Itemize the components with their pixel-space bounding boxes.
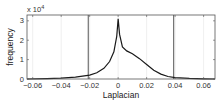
x-tick-label: 0.04 [168, 81, 183, 90]
y-tick-label: 2 [20, 36, 24, 45]
x-axis-label: Laplacian [103, 90, 140, 100]
x-tick-label: −0.06 [23, 81, 42, 90]
x-tick-label: −0.02 [80, 81, 99, 90]
y-tick-label: 3 [20, 16, 24, 25]
y-tick-label: 0 [20, 75, 24, 84]
x-tick-label: 0 [116, 81, 120, 90]
x-tick-label: −0.04 [52, 81, 71, 90]
plot-area-frame [27, 15, 215, 79]
y-axis-label: frequency [5, 28, 15, 66]
threshold-lines [88, 15, 173, 79]
y-multiplier: x 104 [27, 4, 44, 14]
x-tick-label: 0.06 [196, 81, 211, 90]
x-tick-label: 0.02 [139, 81, 154, 90]
y-tick-label: 1 [20, 55, 24, 64]
frequency-curve [27, 19, 215, 79]
chart: −0.06−0.04−0.0200.020.040.06 0123 Laplac… [0, 0, 224, 102]
